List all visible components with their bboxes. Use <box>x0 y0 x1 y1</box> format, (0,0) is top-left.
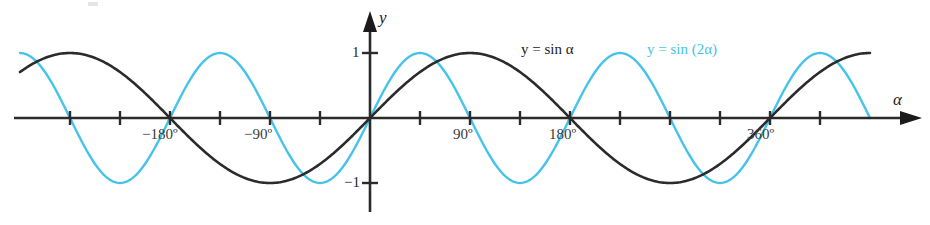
legend-label-sin-alpha: y = sin α <box>521 41 574 58</box>
x-tick-label-minus-180: −180º <box>142 126 178 143</box>
x-tick-label-90: 90º <box>453 126 473 143</box>
x-tick-label-360: 360º <box>747 126 774 143</box>
y-axis-label: y <box>379 8 387 28</box>
y-tick-label-positive-one: 1 <box>352 44 360 61</box>
plot-canvas <box>0 0 930 225</box>
y-axis-arrowhead <box>363 11 377 32</box>
y-tick-label-negative-one: −1 <box>344 174 360 191</box>
x-tick-label-minus-90: −90º <box>244 126 272 143</box>
x-axis-arrowhead <box>900 111 922 125</box>
legend-label-sin-2alpha: y = sin (2α) <box>647 41 717 58</box>
sine-comparison-figure: y α 1 −1 −180º −90º 90º 180º 360º y = si… <box>0 0 930 225</box>
x-tick-label-180: 180º <box>549 126 576 143</box>
x-axis-label: α <box>893 90 902 110</box>
